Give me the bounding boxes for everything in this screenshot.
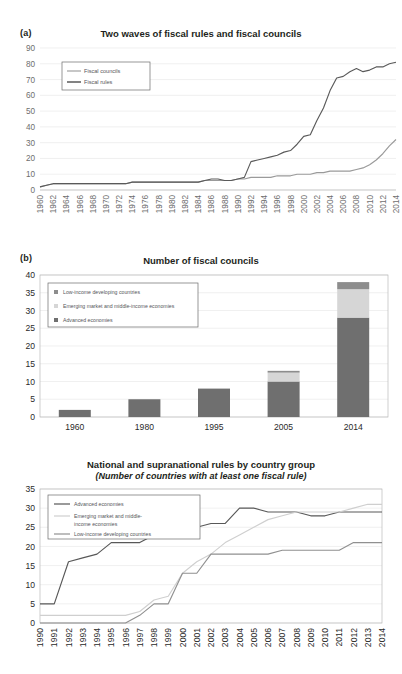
y-tick-label: 25 [25, 522, 35, 532]
x-tick-label: 2010 [366, 195, 375, 214]
x-tick-label: 1996 [121, 628, 131, 647]
figure-container: (a) Two waves of fiscal rules and fiscal… [0, 0, 402, 674]
legend-swatch-2 [54, 318, 58, 322]
x-tick-label: 1990 [234, 195, 243, 214]
x-tick-label: 1994 [260, 195, 269, 214]
x-tick-label: 2002 [206, 628, 216, 647]
x-tick-label: 2009 [306, 628, 316, 647]
x-tick-label: 2014 [344, 422, 363, 432]
x-tick-label: 2000 [300, 195, 309, 214]
legend-label-1: Emerging market and middle-income econom… [63, 303, 175, 309]
y-tick-label: 20 [25, 542, 35, 552]
x-tick-label: 1993 [78, 628, 88, 647]
y-tick-label: 60 [26, 91, 36, 100]
y-tick-label: 90 [26, 44, 36, 53]
x-tick-label: 1990 [35, 628, 45, 647]
y-tick-label: 35 [25, 288, 35, 298]
x-tick-label: 1960 [36, 195, 45, 214]
x-tick-label: 1964 [62, 195, 71, 214]
series-line-2 [40, 543, 382, 623]
legend-label-0: Low-income developing countries [63, 289, 140, 295]
y-tick-label: 30 [25, 306, 35, 316]
bar-segment [268, 373, 300, 382]
legend-label-0: Fiscal councils [84, 68, 121, 74]
x-tick-label: 2003 [220, 628, 230, 647]
y-tick-label: 70 [26, 76, 36, 85]
x-tick-label: 1986 [207, 195, 216, 214]
x-tick-label: 2008 [292, 628, 302, 647]
panel-a-legend [62, 62, 150, 90]
x-tick-label: 1995 [106, 628, 116, 647]
panel-a-title: Two waves of fiscal rules and fiscal cou… [0, 28, 402, 39]
x-tick-label: 1980 [135, 422, 154, 432]
x-tick-label: 2008 [352, 195, 361, 214]
legend-label-0: Advanced economies [74, 501, 124, 507]
x-tick-label: 1992 [247, 195, 256, 214]
x-tick-label: 2001 [192, 628, 202, 647]
x-tick-label: 1978 [155, 195, 164, 214]
bar-segment [59, 410, 91, 417]
x-tick-label: 1997 [135, 628, 145, 647]
x-tick-label: 1995 [204, 422, 223, 432]
x-tick-label: 1974 [128, 195, 137, 214]
x-tick-label: 2012 [349, 628, 359, 647]
y-tick-label: 30 [26, 139, 36, 148]
legend-label-1: Emerging market and middle- [74, 513, 142, 519]
x-tick-label: 1976 [141, 195, 150, 214]
panel-b-title: Number of fiscal councils [0, 255, 402, 266]
x-tick-label: 1980 [168, 195, 177, 214]
panel-c: National and supranational rules by coun… [0, 457, 402, 674]
bar-segment [268, 371, 300, 373]
x-tick-label: 2006 [339, 195, 348, 214]
bar-segment [198, 389, 230, 417]
x-tick-label: 2010 [320, 628, 330, 647]
y-tick-label: 10 [26, 170, 36, 179]
x-tick-label: 1984 [194, 195, 203, 214]
x-tick-label: 1998 [287, 195, 296, 214]
legend-swatch-0 [54, 290, 58, 294]
x-tick-label: 2014 [377, 628, 387, 647]
y-tick-label: 35 [25, 484, 35, 494]
y-tick-label: 15 [25, 359, 35, 369]
x-tick-label: 2000 [178, 628, 188, 647]
legend-label-2: Low-income developing countries [74, 531, 151, 537]
y-tick-label: 25 [25, 323, 35, 333]
x-tick-label: 2006 [263, 628, 273, 647]
bar-segment [268, 382, 300, 418]
y-tick-label: 0 [30, 186, 35, 195]
x-tick-label: 1960 [65, 422, 84, 432]
x-tick-label: 1994 [92, 628, 102, 647]
y-tick-label: 30 [25, 503, 35, 513]
series-line-0 [40, 140, 396, 187]
y-tick-label: 5 [30, 394, 35, 404]
panel-c-subtitle: (Number of countries with at least one f… [0, 471, 402, 481]
x-tick-label: 1966 [76, 195, 85, 214]
x-tick-label: 1982 [181, 195, 190, 214]
y-tick-label: 20 [26, 154, 36, 163]
y-tick-label: 40 [26, 123, 36, 132]
y-tick-label: 10 [25, 377, 35, 387]
x-tick-label: 2012 [379, 195, 388, 214]
y-tick-label: 5 [30, 599, 35, 609]
y-tick-label: 0 [30, 618, 35, 628]
y-tick-label: 10 [25, 580, 35, 590]
panel-c-plot: 0510152025303519901991199219931994199519… [0, 483, 402, 673]
x-tick-label: 2014 [392, 195, 401, 214]
bar-segment [337, 289, 369, 317]
x-tick-label: 2007 [277, 628, 287, 647]
x-tick-label: 2004 [235, 628, 245, 647]
y-tick-label: 50 [26, 107, 36, 116]
x-tick-label: 2002 [313, 195, 322, 214]
y-tick-label: 15 [25, 561, 35, 571]
x-tick-label: 1998 [149, 628, 159, 647]
x-tick-label: 1988 [221, 195, 230, 214]
bar-segment [128, 399, 160, 417]
x-tick-label: 2005 [274, 422, 293, 432]
x-tick-label: 1992 [64, 628, 74, 647]
x-tick-label: 1968 [89, 195, 98, 214]
panel-b-plot: 051015202530354019601980199520052014Low-… [0, 267, 402, 457]
legend-label-1: Fiscal rules [84, 79, 112, 85]
x-tick-label: 1970 [102, 195, 111, 214]
x-tick-label: 1972 [115, 195, 124, 214]
legend-label-1: income economies [74, 521, 118, 527]
